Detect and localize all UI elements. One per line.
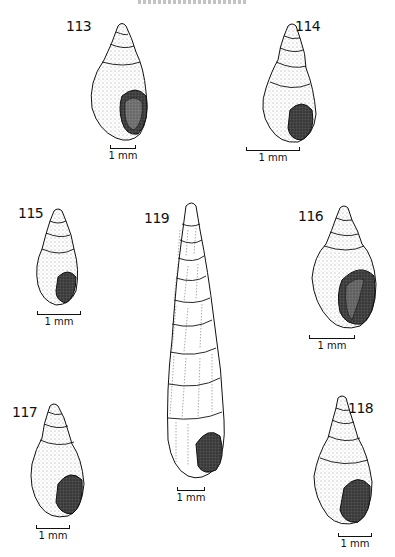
scale-bar: 1 mm (336, 532, 374, 549)
scale-bar: 1 mm (176, 486, 206, 503)
scale-bar: 1 mm (108, 144, 138, 161)
figure-116: 116 1 mm (290, 200, 390, 350)
figure-114: 114 1 mm (240, 18, 350, 168)
shell-illustration (150, 200, 240, 500)
figure-115: 115 1 mm (10, 205, 100, 335)
figure-113: 113 1 mm (70, 18, 170, 168)
figure-119: 119 1 mm (150, 200, 240, 500)
scale-label: 1 mm (340, 538, 369, 549)
scale-bar: 1 mm (34, 524, 72, 541)
scale-label: 1 mm (317, 340, 346, 351)
figure-117: 117 1 mm (10, 398, 110, 548)
scale-label: 1 mm (108, 150, 137, 161)
scale-bar: 1 mm (244, 146, 302, 163)
scale-bar: 1 mm (36, 310, 82, 327)
scale-bar: 1 mm (308, 334, 356, 351)
shell-illustration (280, 392, 390, 552)
scale-label: 1 mm (258, 152, 287, 163)
running-header-partial (138, 0, 248, 4)
figure-118: 118 1 mm (280, 392, 390, 552)
scale-label: 1 mm (38, 530, 67, 541)
scale-label: 1 mm (44, 316, 73, 327)
shell-illustration (290, 200, 390, 350)
scale-label: 1 mm (176, 492, 205, 503)
